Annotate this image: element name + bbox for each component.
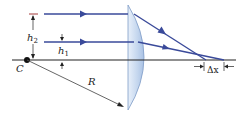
delta-x-left-arrow-icon bbox=[200, 65, 204, 69]
delta-x-right-arrow-icon bbox=[224, 65, 228, 69]
inner-ray-arrow-icon bbox=[80, 39, 87, 46]
h2-arrow-up-icon bbox=[31, 15, 35, 20]
radius-line bbox=[27, 60, 122, 106]
outer-ray-arrow-icon bbox=[80, 11, 87, 18]
h1-label: h1 bbox=[58, 45, 69, 58]
inner-ray-refracted-arrow-icon bbox=[162, 44, 170, 50]
h1-arrow-up-icon bbox=[60, 62, 64, 66]
center-label: C bbox=[16, 63, 24, 74]
radius-label: R bbox=[87, 76, 96, 87]
radius-arrowhead bbox=[117, 102, 124, 107]
h2-arrow-down-icon bbox=[31, 54, 35, 59]
lens bbox=[128, 5, 144, 110]
h1-arrow-down-icon bbox=[60, 37, 64, 41]
delta-x-label: Δx bbox=[207, 65, 219, 75]
spherical-aberration-diagram: h2 h1 C R Δx bbox=[0, 0, 245, 117]
outer-ray-refracted bbox=[134, 14, 206, 60]
